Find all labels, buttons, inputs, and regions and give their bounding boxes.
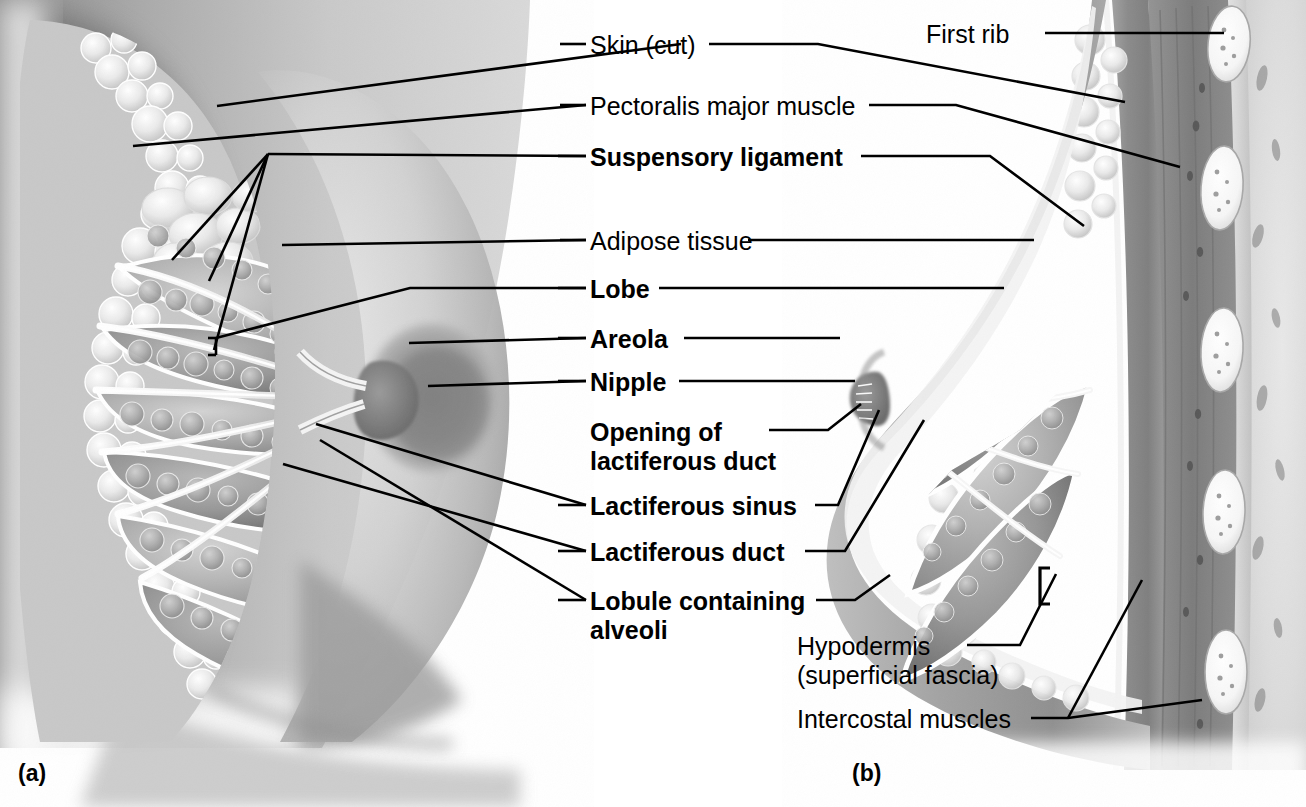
panel-a-illustration: [0, 0, 540, 807]
panel-letter-a: (a): [18, 760, 46, 787]
label-lactiferous-duct: Lactiferous duct: [590, 538, 784, 567]
label-areola: Areola: [590, 325, 668, 354]
panel-letter-b: (b): [852, 760, 881, 787]
label-pectoralis-major-muscle: Pectoralis major muscle: [590, 92, 855, 121]
label-first-rib: First rib: [926, 20, 1009, 49]
anatomy-illustration: [0, 0, 1306, 807]
label-lobule-containing-alveoli: Lobule containing alveoli: [590, 587, 805, 645]
label-intercostal-muscles: Intercostal muscles: [797, 705, 1011, 734]
label-nipple: Nipple: [590, 368, 666, 397]
label-lactiferous-sinus: Lactiferous sinus: [590, 492, 797, 521]
label-opening-of-lactiferous-duct: Opening of lactiferous duct: [590, 418, 776, 476]
hypodermis-bracket: [1040, 568, 1050, 604]
label-suspensory-ligament: Suspensory ligament: [590, 143, 843, 172]
label-adipose-tissue: Adipose tissue: [590, 227, 753, 256]
label-lobe: Lobe: [590, 275, 650, 304]
label-hypodermis-superficial-fascia: Hypodermis (superficial fascia): [797, 632, 998, 690]
label-skin-cut: Skin (cut): [590, 31, 696, 60]
figure-page: Skin (cut) Pectoralis major muscle Suspe…: [0, 0, 1306, 807]
